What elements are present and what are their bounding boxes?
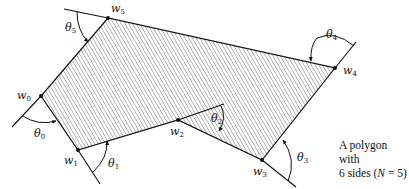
label-w4: w4 <box>343 65 357 78</box>
label-theta3: θ3 <box>297 152 308 165</box>
label-w3: w3 <box>253 166 267 179</box>
label-theta5: θ5 <box>65 22 76 35</box>
label-theta2: θ2 <box>211 113 222 126</box>
label-w0: w0 <box>17 90 31 103</box>
label-theta0: θ0 <box>34 128 45 141</box>
label-theta4: θ4 <box>326 29 337 42</box>
label-theta1: θ1 <box>108 158 119 171</box>
caption-line-2: 6 sides (N = 5) <box>339 166 409 180</box>
label-w5: w5 <box>111 3 125 16</box>
label-w2: w2 <box>170 126 184 139</box>
caption-line-1: A polygon with <box>339 138 409 166</box>
theta1-arc <box>93 141 107 172</box>
label-w1: w1 <box>64 155 78 168</box>
theta0-arc <box>23 116 56 123</box>
theta3-arc <box>283 140 292 181</box>
figure-caption: A polygon with 6 sides (N = 5) <box>339 138 409 180</box>
theta5-arc <box>77 12 88 42</box>
